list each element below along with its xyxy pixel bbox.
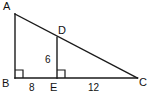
vertex-label-a: A (3, 1, 10, 12)
vertex-label-e: E (50, 82, 57, 93)
measure-label-de: 6 (45, 54, 51, 65)
vertex-label-c: C (139, 77, 147, 88)
triangle-figure (0, 0, 150, 99)
right-angle-e (57, 70, 65, 78)
segment-ac (15, 14, 138, 78)
measure-label-ec: 12 (88, 82, 99, 93)
geometry-diagram: A B C D E 6 8 12 (0, 0, 150, 99)
measure-label-be: 8 (29, 82, 35, 93)
vertex-label-d: D (58, 25, 66, 36)
vertex-label-b: B (2, 78, 9, 89)
right-angle-b (15, 70, 23, 78)
